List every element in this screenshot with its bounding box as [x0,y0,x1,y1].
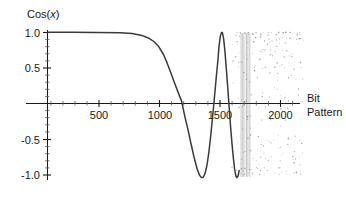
y-tick-label-0_5: 0.5 [25,62,40,74]
x-axis-minor-ticks [51,101,293,106]
x-tick-label-2000: 2000 [268,109,292,121]
y-tick-label-1: 1.0 [25,27,40,39]
cos-curve [48,32,240,177]
x-axis-title-line1: Bit [307,92,320,104]
x-tick-label-1000: 1000 [148,109,172,121]
x-axis-title-line2: Pattern [307,106,342,118]
y-tick-label-neg0_5: -0.5 [21,134,40,146]
x-tick-label-500: 500 [90,109,108,121]
cos-aliasing-chart: Cos(x) 1.0 0.5 -0.5 -1.0 [0,0,346,200]
y-axis-title: Cos(x) [27,8,59,20]
y-tick-label-neg1: -1.0 [21,169,40,181]
x-tick-label-1500: 1500 [208,109,232,121]
aliased-dense-band [240,33,250,177]
